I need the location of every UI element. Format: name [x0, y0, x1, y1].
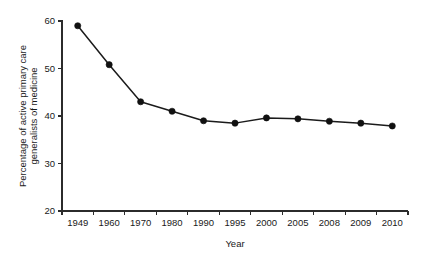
x-axis-tick-label: 2005 [287, 217, 308, 228]
x-axis-tick-label: 2008 [319, 217, 340, 228]
y-axis-tick-label: 60 [44, 15, 55, 26]
y-axis-tick-label: 50 [44, 63, 55, 74]
series-line [78, 26, 393, 126]
x-axis-tick-label: 1990 [193, 217, 214, 228]
x-axis-tick-label: 1995 [224, 217, 245, 228]
y-axis-tick-label: 20 [44, 205, 55, 216]
data-point-marker [326, 118, 332, 124]
data-point-marker [358, 120, 364, 126]
x-axis-tick-label: 2010 [382, 217, 403, 228]
line-chart: 2030405060194919601970198019901995200020… [0, 0, 426, 263]
x-axis-tick-label: 1949 [67, 217, 88, 228]
data-point-marker [169, 108, 175, 114]
data-point-marker [389, 123, 395, 129]
data-point-marker [106, 62, 112, 68]
x-axis-title: Year [225, 238, 244, 249]
x-axis-tick-label: 1970 [130, 217, 151, 228]
data-point-marker [295, 116, 301, 122]
x-axis-tick-label: 1960 [99, 217, 120, 228]
y-axis-title-line-2: generalists of medicine [28, 67, 39, 164]
x-axis-tick-label: 1980 [162, 217, 183, 228]
y-axis-tick-label: 30 [44, 158, 55, 169]
y-axis-tick-label: 40 [44, 110, 55, 121]
data-point-marker [200, 118, 206, 124]
chart-figure: 2030405060194919601970198019901995200020… [0, 0, 426, 263]
data-point-marker [138, 99, 144, 105]
data-point-marker [263, 115, 269, 121]
data-point-marker [75, 23, 81, 29]
x-axis-tick-label: 2009 [350, 217, 371, 228]
y-axis-title-line-1: Percentage of active primary care [17, 45, 28, 187]
x-axis-tick-label: 2000 [256, 217, 277, 228]
data-point-marker [232, 120, 238, 126]
